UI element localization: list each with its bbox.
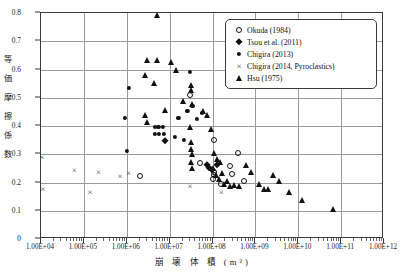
legend-item[interactable]: Hsu (1975) xyxy=(231,72,371,84)
data-point xyxy=(162,107,168,113)
x-tick-minor xyxy=(103,238,104,241)
x-tick-minor xyxy=(76,238,77,241)
data-point xyxy=(208,126,214,132)
data-point xyxy=(229,171,235,177)
x-tick-mark xyxy=(126,238,127,243)
y-tick-label: 0.8 xyxy=(0,8,21,17)
data-point xyxy=(125,148,129,152)
data-point xyxy=(142,112,148,118)
x-tick-minor xyxy=(224,238,225,241)
x-tick-minor xyxy=(124,238,125,241)
x-tick-minor xyxy=(207,238,208,241)
x-tick-minor xyxy=(189,238,190,241)
data-point xyxy=(188,87,194,93)
y-tick-label: 0 xyxy=(0,234,21,243)
x-tick-minor xyxy=(60,238,61,241)
data-point xyxy=(248,169,254,175)
y-tick-label: 0.4 xyxy=(0,121,21,130)
legend-marker-icon xyxy=(231,36,247,48)
x-tick-minor xyxy=(241,238,242,241)
y-tick-mark xyxy=(35,12,40,13)
x-tick-label: 1.00E+11 xyxy=(326,243,354,251)
x-tick-label: 1.00E+09 xyxy=(240,243,268,251)
data-point xyxy=(137,173,143,179)
x-tick-minor xyxy=(159,238,160,241)
x-tick-minor xyxy=(327,238,328,241)
y-tick-mark xyxy=(35,68,40,69)
x-tick-label: 1.00E+10 xyxy=(283,243,311,251)
x-tick-label: 1.00E+05 xyxy=(69,243,97,251)
legend-marker-icon xyxy=(231,48,247,60)
x-tick-minor xyxy=(116,238,117,241)
data-point xyxy=(189,101,195,107)
y-tick-label: 0.2 xyxy=(0,177,21,186)
y-tick-mark xyxy=(35,40,40,41)
data-point xyxy=(95,168,102,175)
x-tick-minor xyxy=(376,238,377,241)
data-point xyxy=(172,135,176,139)
data-point xyxy=(71,166,78,173)
data-point xyxy=(188,70,192,74)
data-point xyxy=(182,137,186,141)
y-tick-mark xyxy=(35,181,40,182)
gridline-vertical xyxy=(127,13,128,237)
legend-label: Chigira (2014, Pyroclastics) xyxy=(247,62,335,71)
data-point xyxy=(218,188,225,195)
data-point xyxy=(286,189,292,195)
x-tick-mark xyxy=(297,238,298,243)
data-point xyxy=(227,163,233,169)
x-tick-mark xyxy=(212,238,213,243)
data-point xyxy=(117,173,124,180)
x-tick-minor xyxy=(291,238,292,241)
data-point xyxy=(144,119,150,125)
data-point xyxy=(87,189,94,196)
data-point xyxy=(162,137,170,145)
x-tick-minor xyxy=(210,238,211,241)
data-point xyxy=(173,67,179,73)
y-tick-label: 0.3 xyxy=(0,149,21,158)
data-point xyxy=(219,170,225,176)
data-point xyxy=(217,159,223,165)
data-point xyxy=(204,112,210,118)
data-point xyxy=(144,57,150,63)
legend-item[interactable]: Okuda (1984) xyxy=(231,24,371,36)
x-tick-minor xyxy=(331,238,332,241)
x-tick-minor xyxy=(280,238,281,241)
x-tick-label: 1.00E+07 xyxy=(155,243,183,251)
x-tick-minor xyxy=(122,238,123,241)
x-tick-minor xyxy=(267,238,268,241)
x-tick-minor xyxy=(232,238,233,241)
legend-item[interactable]: Chigira (2014, Pyroclastics) xyxy=(231,60,371,72)
data-point xyxy=(210,165,216,171)
legend-item[interactable]: Tsou et al. (2011) xyxy=(231,36,371,48)
x-tick-minor xyxy=(333,238,334,241)
x-tick-minor xyxy=(361,238,362,241)
x-tick-minor xyxy=(199,238,200,241)
data-point xyxy=(125,170,132,177)
data-point xyxy=(330,206,336,212)
data-point xyxy=(142,72,148,78)
y-tick-mark xyxy=(35,153,40,154)
data-point xyxy=(236,183,242,189)
x-tick-minor xyxy=(73,238,74,241)
x-tick-minor xyxy=(250,238,251,241)
x-tick-label: 1.00E+04 xyxy=(26,243,54,251)
data-point xyxy=(185,109,189,113)
data-point xyxy=(161,124,165,128)
x-axis-label: 崩 壊 体 積 (m³) xyxy=(0,255,406,267)
y-tick-mark xyxy=(35,125,40,126)
x-tick-label: 1.00E+12 xyxy=(369,243,397,251)
x-tick-mark xyxy=(40,238,41,243)
data-point xyxy=(40,186,46,193)
legend-item[interactable]: Chigira (2013) xyxy=(231,48,371,60)
gridline-horizontal xyxy=(41,183,382,184)
data-point xyxy=(243,162,249,168)
x-tick-minor xyxy=(323,238,324,241)
x-tick-minor xyxy=(164,238,165,241)
x-tick-minor xyxy=(81,238,82,241)
data-point xyxy=(40,153,45,160)
x-tick-minor xyxy=(353,238,354,241)
data-point xyxy=(299,197,305,203)
data-point xyxy=(189,165,195,171)
x-tick-minor xyxy=(167,238,168,241)
